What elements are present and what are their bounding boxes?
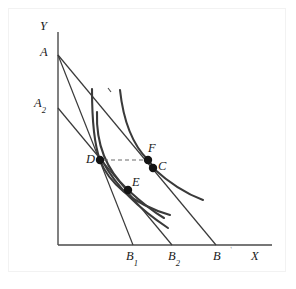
point-label-F: F (148, 142, 156, 155)
intercept-label-a2-sub: 2 (42, 105, 46, 115)
point-E (124, 186, 132, 194)
x-axis-label: X (251, 250, 259, 263)
x-tick-label-b2-sub: 2 (176, 258, 180, 268)
point-label-C: C (158, 160, 166, 173)
x-tick-label-b-main: B (213, 249, 221, 263)
point-label-D: D (86, 153, 95, 166)
budget-line-tick (108, 88, 111, 92)
point-C (149, 164, 157, 172)
point-label-E: E (132, 176, 140, 189)
x-tick-label-b1-sub: 1 (134, 258, 138, 268)
intercept-label-a2-main: A (34, 96, 42, 110)
y-axis-label: Y (40, 20, 47, 33)
x-tick-label-b1-main: B (126, 249, 134, 263)
budget-line-AB (58, 55, 216, 245)
budget-line-AB1 (58, 55, 133, 245)
point-D (96, 156, 104, 164)
x-tick-label-b1: B1 (126, 250, 138, 265)
x-tick-label-b2-main: B (168, 249, 176, 263)
point-F (144, 156, 152, 164)
x-tick-label-b: B (213, 250, 221, 263)
intercept-label-a2: A2 (34, 97, 46, 112)
figure-root: Y X A A2 D F C E B1 B2 B ' (0, 0, 296, 289)
intercept-label-a: A (40, 46, 48, 59)
x-tick-label-b2: B2 (168, 250, 180, 265)
